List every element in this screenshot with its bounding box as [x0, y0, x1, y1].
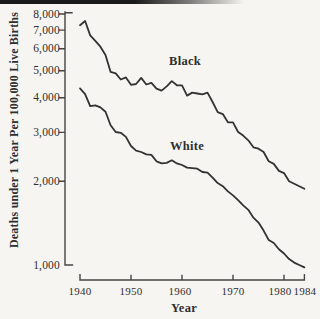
y-axis — [60, 12, 73, 265]
y-tick-label: 1,000 — [16, 259, 60, 272]
y-tick-label: 7,000 — [16, 24, 60, 37]
y-tick-label: 2,000 — [16, 175, 60, 188]
x-axis-title: Year — [171, 301, 197, 316]
series-line-black — [80, 21, 304, 189]
x-tick-label: 1984 — [289, 285, 320, 298]
infant-mortality-line-chart: Deaths under 1 Year Per 100,000 Live Bir… — [0, 0, 320, 319]
y-tick-label: 6,000 — [16, 42, 60, 55]
series-line-white — [80, 88, 304, 267]
series-label-white: White — [170, 139, 204, 154]
x-tick-label: 1960 — [164, 285, 196, 298]
y-tick-label: 4,000 — [16, 91, 60, 104]
x-tick-label: 1940 — [64, 285, 96, 298]
x-tick-label: 1950 — [115, 285, 147, 298]
y-tick-label: 8,000 — [16, 8, 60, 21]
series-label-black: Black — [169, 54, 201, 69]
y-tick-label: 5,000 — [16, 64, 60, 77]
y-tick-label: 3,000 — [16, 126, 60, 139]
x-tick-label: 1970 — [217, 285, 249, 298]
x-axis — [80, 275, 304, 280]
